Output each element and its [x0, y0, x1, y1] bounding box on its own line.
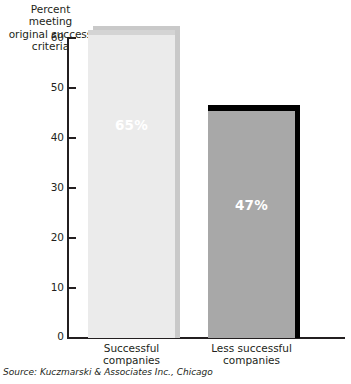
bar-2-value-label: 47%: [208, 197, 295, 213]
y-tick-10: [69, 287, 76, 289]
x-category-label-1-line-2: companies: [78, 354, 185, 366]
y-tick-20: [69, 237, 76, 239]
x-category-label-2: Less successful companies: [198, 342, 305, 367]
bar-successful-companies[interactable]: 65%: [88, 35, 175, 338]
y-tick-0: [69, 337, 76, 339]
y-axis-title: Percent meeting original success criteri…: [0, 3, 101, 53]
y-tick-label-10: 10: [24, 282, 64, 293]
y-tick-label-30: 30: [24, 182, 64, 193]
y-tick-label-60: 60: [24, 32, 64, 43]
bar-less-successful-companies[interactable]: 47%: [208, 111, 295, 338]
bar-1-value-label: 65%: [88, 117, 175, 133]
y-tick-label-20: 20: [24, 232, 64, 243]
y-tick-label-0: 0: [24, 331, 64, 342]
source-note: Source: Kuczmarski & Associates Inc., Ch…: [3, 367, 213, 377]
x-category-label-2-line-1: Less successful: [198, 342, 305, 354]
y-axis-title-line-1: Percent: [0, 3, 101, 15]
bar-chart: Percent meeting original success criteri…: [0, 0, 351, 384]
bar-2-fill: [208, 111, 295, 338]
x-category-label-2-line-2: companies: [198, 354, 305, 366]
x-category-label-1: Successful companies: [78, 342, 185, 367]
y-tick-50: [69, 87, 76, 89]
y-tick-label-50: 50: [24, 82, 64, 93]
y-tick-label-40: 40: [24, 132, 64, 143]
y-tick-30: [69, 187, 76, 189]
y-axis-title-line-2: meeting: [0, 15, 101, 27]
x-category-label-1-line-1: Successful: [78, 342, 185, 354]
y-tick-60: [69, 37, 76, 39]
y-tick-40: [69, 137, 76, 139]
bar-1-fill: [88, 35, 175, 338]
